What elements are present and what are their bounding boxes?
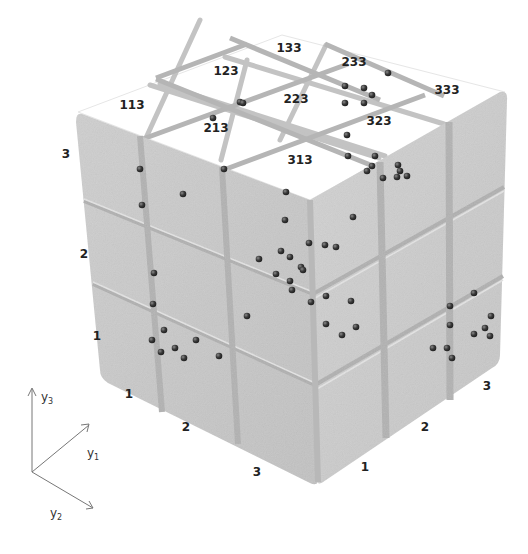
data-point (300, 267, 307, 274)
data-point (344, 132, 351, 139)
data-point (216, 353, 223, 360)
data-point (158, 349, 165, 356)
data-point (369, 92, 376, 99)
data-point (394, 174, 401, 181)
y3-level-label: 3 (62, 147, 70, 161)
data-point (397, 168, 404, 175)
data-point (278, 248, 285, 255)
data-point (385, 70, 392, 77)
data-point (323, 321, 330, 328)
y3-level-label: 2 (80, 247, 88, 261)
data-point (339, 332, 346, 339)
data-point (364, 168, 371, 175)
data-point (287, 254, 294, 261)
data-point (289, 287, 296, 294)
data-point (283, 189, 290, 196)
data-point (172, 345, 179, 352)
data-point (471, 290, 478, 297)
data-point (322, 242, 329, 249)
data-point (308, 299, 315, 306)
data-point (244, 313, 251, 320)
data-point (273, 271, 280, 278)
data-point (395, 162, 402, 169)
y2-axis-label: y2 (50, 506, 62, 522)
y1-level-label: 3 (253, 465, 261, 479)
top-cell-label: 113 (119, 98, 144, 112)
top-cell-label: 333 (434, 83, 459, 97)
top-cell-label: 223 (283, 92, 308, 106)
data-point (137, 166, 144, 173)
data-point (151, 270, 158, 277)
y2-level-label: 1 (361, 460, 369, 474)
y1-level-label: 2 (182, 420, 190, 434)
y3-level-label: 1 (93, 329, 101, 343)
data-point (282, 217, 289, 224)
data-point (333, 244, 340, 251)
top-cell-label: 213 (203, 121, 228, 135)
data-point (380, 175, 387, 182)
data-point (444, 345, 451, 352)
data-point (240, 100, 247, 107)
data-point (369, 163, 376, 170)
data-point (180, 191, 187, 198)
data-point (361, 85, 368, 92)
data-point (372, 153, 379, 160)
data-point (345, 153, 352, 160)
data-point (193, 337, 200, 344)
data-point (447, 303, 454, 310)
y2-level-label: 3 (483, 379, 491, 393)
data-point (350, 214, 357, 221)
data-point (488, 313, 495, 320)
data-point (161, 327, 168, 334)
y1-axis-arrow (32, 425, 89, 472)
data-point (353, 324, 360, 331)
data-point (342, 100, 349, 107)
data-point (181, 355, 188, 362)
data-point (323, 293, 330, 300)
data-point (447, 322, 454, 329)
top-cell-label: 323 (366, 114, 391, 128)
data-point (487, 333, 494, 340)
data-point (361, 100, 368, 107)
top-cell-label: 123 (213, 64, 238, 78)
top-cell-label: 313 (287, 153, 312, 167)
top-cell-label: 233 (341, 55, 366, 69)
data-point (482, 325, 489, 332)
axis-legend (28, 388, 93, 509)
y1-level-label: 1 (125, 387, 133, 401)
data-point (348, 298, 355, 305)
data-point (221, 166, 228, 173)
cube-diagram: 113123133213223233313323333 321 123 123 … (0, 0, 528, 554)
data-point (306, 240, 313, 247)
top-cell-label: 133 (276, 41, 301, 55)
data-point (287, 278, 294, 285)
data-point (430, 345, 437, 352)
data-point (256, 256, 263, 263)
data-point (150, 301, 157, 308)
data-point (342, 83, 349, 90)
y1-axis-label: y1 (87, 446, 99, 462)
data-point (404, 173, 411, 180)
data-point (471, 331, 478, 338)
data-point (139, 202, 146, 209)
y2-axis-arrow (32, 472, 93, 508)
y2-level-label: 2 (421, 420, 429, 434)
data-point (149, 337, 156, 344)
data-point (449, 355, 456, 362)
y3-axis-label: y3 (41, 390, 53, 406)
